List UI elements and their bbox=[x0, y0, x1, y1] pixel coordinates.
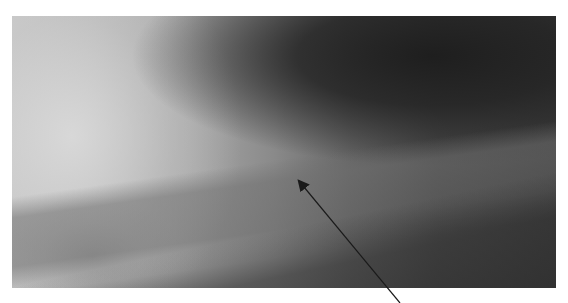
arrow-annotation bbox=[0, 0, 568, 303]
arrow-icon bbox=[299, 181, 400, 303]
